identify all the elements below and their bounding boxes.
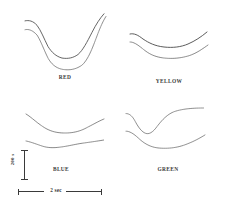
- vertical-scale-bar-cap-top: [21, 150, 28, 151]
- panel-green-trace-upper: [126, 108, 204, 134]
- panel-red-trace-upper: [25, 14, 104, 59]
- horizontal-scale-bar-tick-end: [101, 189, 102, 195]
- panel-yellow-trace-lower: [130, 42, 208, 58]
- panel-red-plot: [22, 12, 108, 74]
- panel-blue-trace-upper: [26, 114, 104, 133]
- horizontal-scale-bar-label: 2 sec: [45, 187, 67, 193]
- panel-blue-trace-lower: [26, 140, 104, 148]
- vertical-scale-bar-label: 200 s: [10, 154, 15, 166]
- panel-blue: BLUE: [24, 110, 106, 156]
- figure-panel-grid: RED YELLOW BLUE GREEN 200 s: [0, 0, 225, 205]
- panel-yellow: YELLOW: [128, 28, 210, 74]
- horizontal-scale-bar: 2 sec: [18, 188, 102, 198]
- horizontal-scale-bar-segment-left: [18, 191, 44, 192]
- panel-red-trace-lower: [25, 16, 106, 69]
- horizontal-scale-bar-tick-start: [18, 189, 19, 195]
- panel-red: RED: [22, 12, 108, 74]
- panel-yellow-label: YELLOW: [156, 78, 182, 84]
- panel-yellow-plot: [128, 28, 210, 74]
- panel-green-trace-lower: [126, 131, 205, 148]
- panel-red-label: RED: [59, 74, 71, 80]
- panel-green: GREEN: [124, 108, 208, 160]
- panel-yellow-trace-upper: [130, 32, 207, 47]
- panel-green-label: GREEN: [158, 166, 179, 172]
- panel-green-plot: [124, 108, 208, 160]
- panel-blue-plot: [24, 110, 106, 156]
- vertical-scale-bar: 200 s: [16, 150, 28, 180]
- horizontal-scale-bar-segment-right: [66, 191, 102, 192]
- vertical-scale-bar-cap-bottom: [21, 179, 28, 180]
- vertical-scale-bar-line: [24, 150, 25, 180]
- panel-blue-label: BLUE: [53, 166, 69, 172]
